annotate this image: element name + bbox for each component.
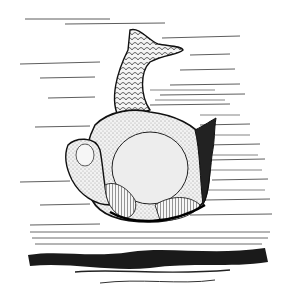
armored-fish-engraving: [0, 0, 291, 302]
sea-floor: [28, 232, 270, 283]
left-plate-boss: [76, 144, 94, 166]
illustration-canvas: [0, 0, 291, 302]
fish-tail: [115, 30, 183, 120]
